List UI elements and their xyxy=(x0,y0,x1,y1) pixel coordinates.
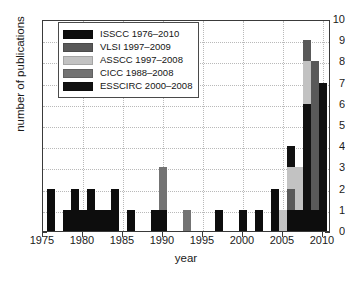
legend-label: ASSCC 1997–2008 xyxy=(100,55,183,65)
bar xyxy=(311,61,318,231)
bar-segment xyxy=(319,210,326,231)
legend-label: VLSI 1997–2009 xyxy=(100,42,171,52)
bar xyxy=(159,167,166,231)
bar xyxy=(71,189,78,231)
legend: ISSCC 1976–2010VLSI 1997–2009ASSCC 1997–… xyxy=(58,22,199,98)
bar-segment xyxy=(287,167,294,188)
legend-swatch xyxy=(63,30,93,39)
bar-segment xyxy=(79,210,86,231)
grid-line-horizontal xyxy=(43,106,329,107)
bar-segment xyxy=(311,61,318,209)
bar-segment xyxy=(71,189,78,231)
legend-swatch xyxy=(63,56,93,65)
grid-line-horizontal xyxy=(43,169,329,170)
bar-segment xyxy=(215,210,222,231)
bar-segment xyxy=(183,210,190,231)
bar-segment xyxy=(255,210,262,231)
legend-swatch xyxy=(63,69,93,78)
bar-segment xyxy=(287,210,294,231)
y-axis-title: number of publications xyxy=(14,0,26,149)
x-tick-mark xyxy=(282,232,283,237)
grid-line-horizontal xyxy=(43,148,329,149)
x-tick-mark xyxy=(122,232,123,237)
bar-segment xyxy=(159,210,166,231)
legend-label: CICC 1988–2008 xyxy=(100,68,173,78)
bar xyxy=(183,210,190,231)
x-tick-mark xyxy=(162,232,163,237)
bar xyxy=(319,83,326,231)
legend-label: ESSCIRC 2000–2008 xyxy=(100,81,192,91)
x-axis-title: year xyxy=(42,252,330,264)
bar-segment xyxy=(111,189,118,231)
grid-line-vertical xyxy=(243,21,244,231)
grid-line-horizontal xyxy=(43,191,329,192)
bar-segment xyxy=(271,189,278,231)
legend-swatch xyxy=(63,82,93,91)
bar xyxy=(95,210,102,231)
bar-segment xyxy=(303,61,310,103)
x-tick-mark xyxy=(322,232,323,237)
bar-segment xyxy=(303,104,310,210)
bar xyxy=(87,189,94,231)
bar-segment xyxy=(287,146,294,167)
bar xyxy=(279,210,286,231)
bar-segment xyxy=(151,210,158,231)
x-tick-mark xyxy=(242,232,243,237)
legend-swatch xyxy=(63,43,93,52)
bar-segment xyxy=(239,210,246,231)
bar-segment xyxy=(63,210,70,231)
grid-line-vertical xyxy=(203,21,204,231)
bar-segment xyxy=(295,167,302,209)
bar xyxy=(47,189,54,231)
bar-segment xyxy=(295,210,302,231)
legend-item: VLSI 1997–2009 xyxy=(63,41,192,53)
bar-segment xyxy=(279,210,286,231)
bar xyxy=(111,189,118,231)
legend-label: ISSCC 1976–2010 xyxy=(100,29,179,39)
bar-segment xyxy=(127,210,134,231)
bar-segment xyxy=(95,210,102,231)
bar xyxy=(215,210,222,231)
bar-segment xyxy=(87,189,94,231)
x-tick-mark xyxy=(42,232,43,237)
legend-item: ASSCC 1997–2008 xyxy=(63,54,192,66)
bar-segment xyxy=(311,210,318,231)
bar xyxy=(79,210,86,231)
bar xyxy=(239,210,246,231)
figure-canvas: number of publications 012345678910 1975… xyxy=(0,0,345,283)
bar xyxy=(127,210,134,231)
grid-line-horizontal xyxy=(43,127,329,128)
bar xyxy=(271,189,278,231)
bar-segment xyxy=(319,83,326,210)
bar-segment xyxy=(303,210,310,231)
bar xyxy=(255,210,262,231)
bar-segment xyxy=(287,189,294,210)
x-tick-mark xyxy=(82,232,83,237)
bar xyxy=(151,210,158,231)
y-tick-mark-right xyxy=(325,232,330,233)
legend-item: ESSCIRC 2000–2008 xyxy=(63,80,192,92)
bar-segment xyxy=(103,210,110,231)
bar xyxy=(63,210,70,231)
bar-segment xyxy=(47,189,54,231)
bar-segment xyxy=(159,167,166,209)
bar xyxy=(103,210,110,231)
legend-item: ISSCC 1976–2010 xyxy=(63,28,192,40)
bar xyxy=(287,146,294,231)
bar xyxy=(303,40,310,231)
grid-line-vertical xyxy=(283,21,284,231)
bar xyxy=(295,167,302,231)
x-tick-mark xyxy=(202,232,203,237)
bar-segment xyxy=(303,40,310,61)
legend-item: CICC 1988–2008 xyxy=(63,67,192,79)
